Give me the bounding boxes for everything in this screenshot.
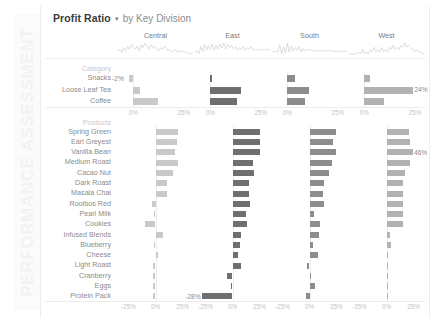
bar-west-eggs[interactable] [387, 283, 388, 289]
row-label-masala-chai: Masala Chai [41, 188, 111, 197]
bar-value-label: -2% [112, 75, 124, 82]
bar-east-coffee[interactable] [210, 98, 236, 105]
row-label-coffee: Coffee [41, 96, 111, 105]
bar-central-protein-pack[interactable] [153, 293, 155, 299]
bar-south-infused-blends[interactable] [310, 232, 320, 238]
bar-south-coffee[interactable] [287, 98, 305, 105]
bar-east-medium-roast[interactable] [233, 160, 254, 166]
bar-east-earl-greyest[interactable] [233, 139, 260, 145]
bar-west-protein-pack[interactable] [387, 293, 388, 299]
bar-central-medium-roast[interactable] [156, 160, 179, 166]
bar-central-loose-leaf-tea[interactable] [133, 87, 140, 94]
bar-central-rooibos-red[interactable] [152, 201, 155, 207]
bar-central-cacao-nut[interactable] [156, 170, 173, 176]
bar-east-loose-leaf-tea[interactable] [210, 87, 241, 94]
bar-east-pearl-milk[interactable] [233, 211, 246, 217]
bar-south-medium-roast[interactable] [310, 160, 333, 166]
bar-west-snacks[interactable] [364, 75, 370, 82]
bar-west-earl-greyest[interactable] [387, 139, 411, 145]
bar-south-loose-leaf-tea[interactable] [287, 87, 309, 94]
bar-east-snacks[interactable] [210, 75, 212, 82]
bar-central-blueberry[interactable] [154, 242, 155, 248]
bar-west-cacao-nut[interactable] [387, 170, 405, 176]
axis-tick-east-0: 0% [222, 303, 244, 310]
bar-central-coffee[interactable] [133, 98, 157, 105]
bar-south-dark-roast[interactable] [310, 180, 324, 186]
bar-east-cheese[interactable] [233, 252, 238, 258]
bar-central-earl-greyest[interactable] [156, 139, 178, 145]
bar-south-eggs[interactable] [310, 283, 315, 289]
bar-west-masala-chai[interactable] [387, 191, 403, 197]
axis-tick-south-0: 0% [299, 303, 321, 310]
bar-central-vanilla-bean[interactable] [156, 149, 176, 155]
bar-south-cacao-nut[interactable] [310, 170, 330, 176]
bar-central-light-roast[interactable] [153, 263, 155, 269]
bar-east-masala-chai[interactable] [233, 191, 249, 197]
bar-south-protein-pack[interactable] [306, 293, 309, 299]
axis-tick-west-0: 0% [353, 109, 375, 116]
bar-south-pearl-milk[interactable] [310, 211, 314, 217]
measure-label[interactable]: Profit Ratio [53, 12, 111, 24]
bar-central-spring-green[interactable] [156, 129, 179, 135]
bar-south-snacks[interactable] [287, 75, 295, 82]
dashboard-root: PERFORMANCE ASSESSMENT Profit Ratio ▾ by… [0, 0, 437, 324]
bar-west-infused-blends[interactable] [387, 232, 390, 238]
bar-east-cacao-nut[interactable] [233, 170, 255, 176]
bar-west-dark-roast[interactable] [387, 180, 403, 186]
bar-west-cranberry[interactable] [387, 273, 388, 279]
bar-west-light-roast[interactable] [387, 263, 388, 269]
bar-west-vanilla-bean[interactable] [387, 149, 413, 155]
axis-tick-east-25: 25% [249, 303, 271, 310]
axis-tick-west--25: -25% [348, 303, 370, 310]
bar-east-cranberry[interactable] [227, 273, 232, 279]
row-label-rooibos-red: Rooibos Red [41, 199, 111, 208]
axis-tick-central-0: 0% [122, 109, 144, 116]
bar-central-snacks[interactable] [129, 75, 133, 82]
bar-east-spring-green[interactable] [233, 129, 260, 135]
bar-east-protein-pack[interactable] [202, 293, 232, 299]
bar-west-medium-roast[interactable] [387, 160, 411, 166]
bar-west-rooibos-red[interactable] [387, 201, 403, 207]
bar-central-cheese[interactable] [156, 252, 158, 258]
page-title: Profit Ratio ▾ by Key Division [53, 12, 191, 24]
chevron-down-icon[interactable]: ▾ [115, 15, 119, 23]
bar-east-vanilla-bean[interactable] [233, 149, 260, 155]
bar-south-rooibos-red[interactable] [310, 201, 324, 207]
row-label-light-roast: Light Roast [41, 260, 111, 269]
bar-south-cookies[interactable] [310, 221, 321, 227]
bar-east-cookies[interactable] [233, 221, 247, 227]
bar-central-masala-chai[interactable] [156, 191, 168, 197]
sparkline-west [348, 39, 425, 56]
bar-west-blueberry[interactable] [387, 242, 391, 248]
bar-east-rooibos-red[interactable] [233, 201, 250, 207]
bar-central-cranberry[interactable] [153, 273, 155, 279]
bar-south-earl-greyest[interactable] [310, 139, 334, 145]
bar-central-dark-roast[interactable] [156, 180, 168, 186]
axis-tick-south-0: 0% [276, 109, 298, 116]
row-label-spring-green: Spring Green [41, 127, 111, 136]
bar-central-eggs[interactable] [153, 283, 155, 289]
bar-east-blueberry[interactable] [233, 242, 241, 248]
bar-south-light-roast[interactable] [307, 263, 309, 269]
bar-south-blueberry[interactable] [310, 242, 313, 248]
bar-east-infused-blends[interactable] [233, 232, 242, 238]
bar-west-spring-green[interactable] [387, 129, 410, 135]
bar-east-eggs[interactable] [231, 283, 232, 289]
bar-west-cookies[interactable] [387, 221, 403, 227]
bar-west-loose-leaf-tea[interactable] [364, 87, 413, 94]
bar-west-pearl-milk[interactable] [387, 211, 403, 217]
bar-central-infused-blends[interactable] [156, 232, 164, 238]
bar-south-vanilla-bean[interactable] [310, 149, 336, 155]
bar-west-coffee[interactable] [364, 98, 384, 105]
bar-south-cheese[interactable] [310, 252, 319, 258]
bar-west-cheese[interactable] [387, 252, 388, 258]
bar-central-pearl-milk[interactable] [154, 211, 155, 217]
row-label-cranberry: Cranberry [41, 271, 111, 280]
axis-tick-east--25: -25% [194, 303, 216, 310]
bar-east-dark-roast[interactable] [233, 180, 249, 186]
bar-central-cookies[interactable] [145, 221, 156, 227]
bar-south-masala-chai[interactable] [310, 191, 323, 197]
bar-south-cranberry[interactable] [310, 273, 311, 279]
bar-south-spring-green[interactable] [310, 129, 336, 135]
bar-east-light-roast[interactable] [233, 263, 242, 269]
